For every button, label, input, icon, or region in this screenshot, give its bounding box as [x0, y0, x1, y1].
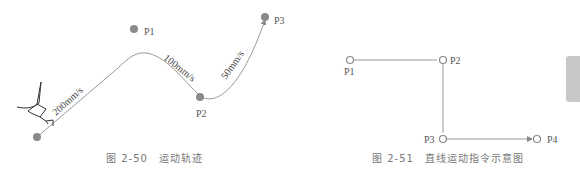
speed-label-100: 100mm/s [162, 52, 198, 84]
point-p3 [261, 13, 269, 21]
start-point [33, 133, 41, 141]
point-p2 [196, 93, 204, 101]
label-p3: P3 [274, 15, 285, 26]
point-p1 [130, 25, 138, 33]
robot-tool-icon [17, 82, 53, 126]
label-p4: P4 [547, 134, 558, 145]
chapter-side-tab [566, 56, 580, 102]
figure-2-51: P1 P2 P3 P4 图 2-51 直线运动指令示意图 [344, 55, 558, 164]
caption-figure-2-51: 图 2-51 直线运动指令示意图 [372, 152, 524, 164]
label-p2: P2 [196, 108, 207, 119]
point-p4 [534, 136, 541, 143]
label-p1: P1 [344, 66, 355, 77]
caption-figure-2-50: 图 2-50 运动轨迹 [106, 152, 203, 164]
label-p3: P3 [424, 134, 435, 145]
point-p1 [347, 57, 354, 64]
point-p2 [440, 57, 447, 64]
speed-label-50: 50mm/s [219, 48, 247, 81]
label-p1: P1 [144, 26, 155, 37]
label-p2: P2 [450, 55, 461, 66]
point-p3 [440, 136, 447, 143]
motion-trajectory-path [37, 20, 265, 137]
figure-2-50: P1 P2 P3 200mm/s 100mm/s 50mm/s 图 2-50 运… [17, 13, 285, 164]
